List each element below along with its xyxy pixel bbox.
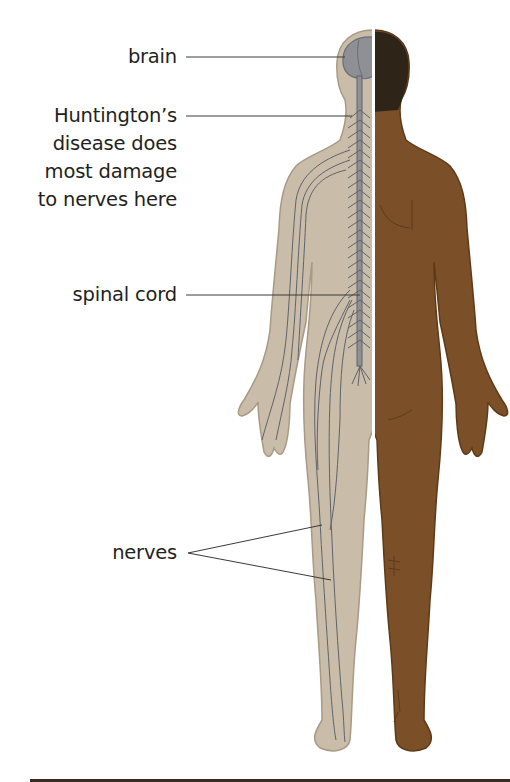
label-huntington-damage: Huntington’s disease does most damage to… (38, 102, 177, 214)
huntington-line-1: Huntington’s (38, 102, 177, 130)
huntington-line-2: disease does (38, 130, 177, 158)
nervous-system-diagram: brain Huntington’s disease does most dam… (0, 0, 510, 782)
label-brain: brain (128, 43, 177, 71)
label-spinal-cord: spinal cord (73, 281, 177, 309)
label-nerves: nerves (112, 539, 177, 567)
huntington-line-3: most damage (38, 158, 177, 186)
nerves-leader-line-upper (188, 525, 322, 553)
center-divider (372, 28, 375, 752)
nerves-leader-line-lower (188, 553, 331, 580)
huntington-line-4: to nerves here (38, 186, 177, 214)
